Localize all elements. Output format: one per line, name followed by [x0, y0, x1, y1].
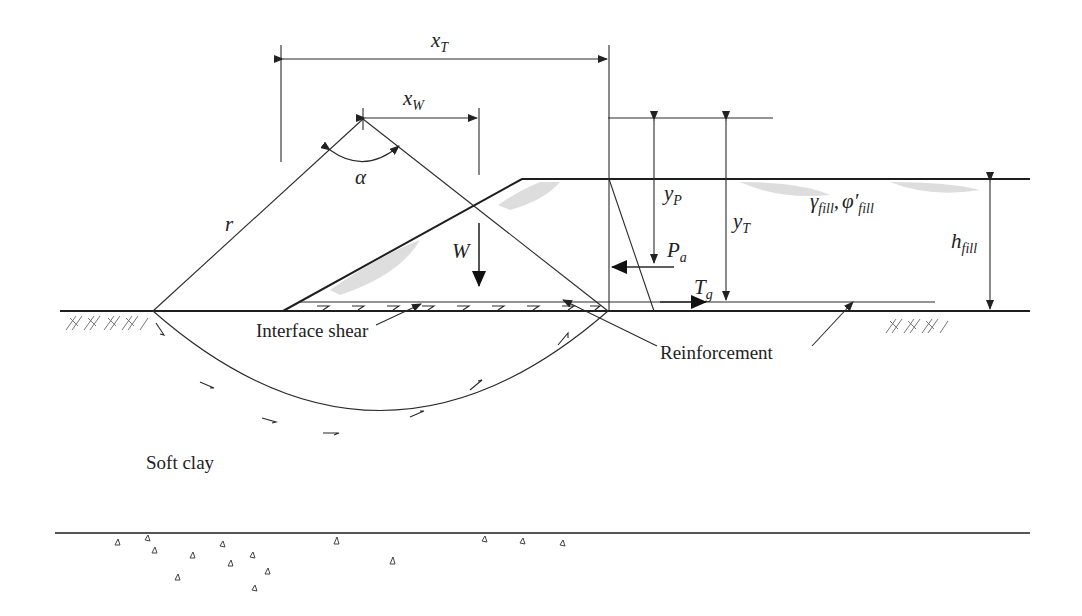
- label-yT: yT: [731, 209, 751, 236]
- interface-shear-marks: [317, 306, 600, 310]
- label-r: r: [225, 212, 234, 236]
- label-soft-clay: Soft clay: [146, 452, 215, 473]
- label-hfill: hfill: [951, 229, 977, 256]
- label-Tg: Tg: [694, 275, 713, 302]
- gravel-symbols: [115, 535, 565, 591]
- ground-hatch-left: [66, 316, 148, 330]
- label-W: W: [452, 239, 472, 263]
- earth-pressure-line: [609, 179, 654, 311]
- embankment-outline: [283, 179, 1030, 311]
- ground-hatch-right: [886, 319, 948, 333]
- reinforcement-leader-left: [563, 300, 657, 346]
- label-Pa: Pa: [666, 238, 687, 265]
- label-interface-shear: Interface shear: [256, 320, 369, 341]
- interface-shear-leader: [376, 304, 421, 325]
- alpha-arc: [330, 146, 399, 162]
- label-reinforcement: Reinforcement: [660, 342, 774, 363]
- label-alpha: α: [355, 165, 367, 189]
- radius-line-right: [363, 119, 608, 311]
- radius-line-left: [153, 119, 363, 311]
- slip-circle-arc: [153, 311, 608, 411]
- label-xT: xT: [430, 28, 449, 55]
- label-yP: yP: [662, 181, 682, 208]
- reinforcement-leader-right: [812, 302, 853, 346]
- fill-stipple: [330, 182, 980, 295]
- embankment-diagram: xT xW α r W yP yT Pa Tg γfill,φ′fill hfi…: [0, 0, 1082, 616]
- label-xW: xW: [402, 86, 425, 113]
